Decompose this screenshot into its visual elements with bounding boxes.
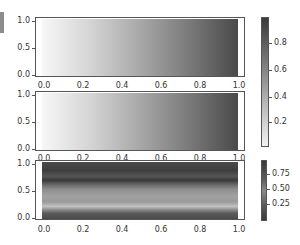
tick-mark bbox=[32, 149, 35, 150]
tick-mark bbox=[32, 75, 35, 76]
panel-2-ytick: 1.0 bbox=[4, 91, 30, 99]
panel-3-bands bbox=[42, 162, 238, 219]
colorbar-bottom-label: 0.25 bbox=[272, 200, 290, 208]
panel-3-axes bbox=[35, 160, 245, 220]
panel-3-xtick: 0.4 bbox=[112, 226, 132, 234]
tick-mark bbox=[269, 97, 272, 98]
colorbar-bottom-label: 0.50 bbox=[272, 185, 290, 193]
tick-mark bbox=[267, 204, 270, 205]
panel-3-xtick: 0.2 bbox=[73, 226, 93, 234]
tick-mark bbox=[32, 191, 35, 192]
panel-3-ytick: 0.0 bbox=[4, 214, 30, 222]
tick-mark bbox=[267, 189, 270, 190]
panel-3-ytick: 0.5 bbox=[4, 187, 30, 195]
panel-1-xtick: 0.0 bbox=[34, 82, 54, 90]
panel-3-xtick: 0.6 bbox=[151, 226, 171, 234]
colorbar-top-label: 0.2 bbox=[274, 118, 287, 126]
panel-1-gradient bbox=[42, 19, 238, 76]
panel-1-ytick: 0.0 bbox=[4, 71, 30, 79]
colorbar-top-label: 0.6 bbox=[274, 66, 287, 74]
panel-1-axes bbox=[35, 17, 245, 77]
colorbar-bottom-bar bbox=[261, 160, 267, 221]
colorbar-top-label: 0.4 bbox=[274, 93, 287, 101]
tick-mark bbox=[267, 174, 270, 175]
panel-3-xtick: 0.0 bbox=[34, 226, 54, 234]
panel-1-xtick: 1.0 bbox=[229, 82, 249, 90]
tick-mark bbox=[32, 48, 35, 49]
panel-1-xtick: 0.2 bbox=[73, 82, 93, 90]
colorbar-bottom-label: 0.75 bbox=[272, 170, 290, 178]
panel-1-xtick: 0.4 bbox=[112, 82, 132, 90]
tick-mark bbox=[269, 70, 272, 71]
panel-1-xtick: 0.8 bbox=[190, 82, 210, 90]
panel-1-xtick: 0.6 bbox=[151, 82, 171, 90]
panel-2-gradient bbox=[42, 93, 238, 150]
panel-1-ytick: 0.5 bbox=[4, 44, 30, 52]
panel-2-ytick: 0.0 bbox=[4, 145, 30, 153]
tick-mark bbox=[269, 43, 272, 44]
tick-mark bbox=[32, 122, 35, 123]
tick-mark bbox=[32, 21, 35, 22]
panel-1-ytick: 1.0 bbox=[4, 17, 30, 25]
tick-mark bbox=[32, 164, 35, 165]
panel-3-xtick: 0.8 bbox=[190, 226, 210, 234]
panel-2-ytick: 0.5 bbox=[4, 118, 30, 126]
tick-mark bbox=[32, 218, 35, 219]
tick-mark bbox=[32, 95, 35, 96]
colorbar-top-label: 0.8 bbox=[274, 39, 287, 47]
colorbar-top-bar bbox=[261, 17, 269, 147]
panel-2-axes bbox=[35, 91, 245, 151]
panel-3-ytick: 1.0 bbox=[4, 160, 30, 168]
tick-mark bbox=[269, 122, 272, 123]
panel-3-xtick: 1.0 bbox=[229, 226, 249, 234]
